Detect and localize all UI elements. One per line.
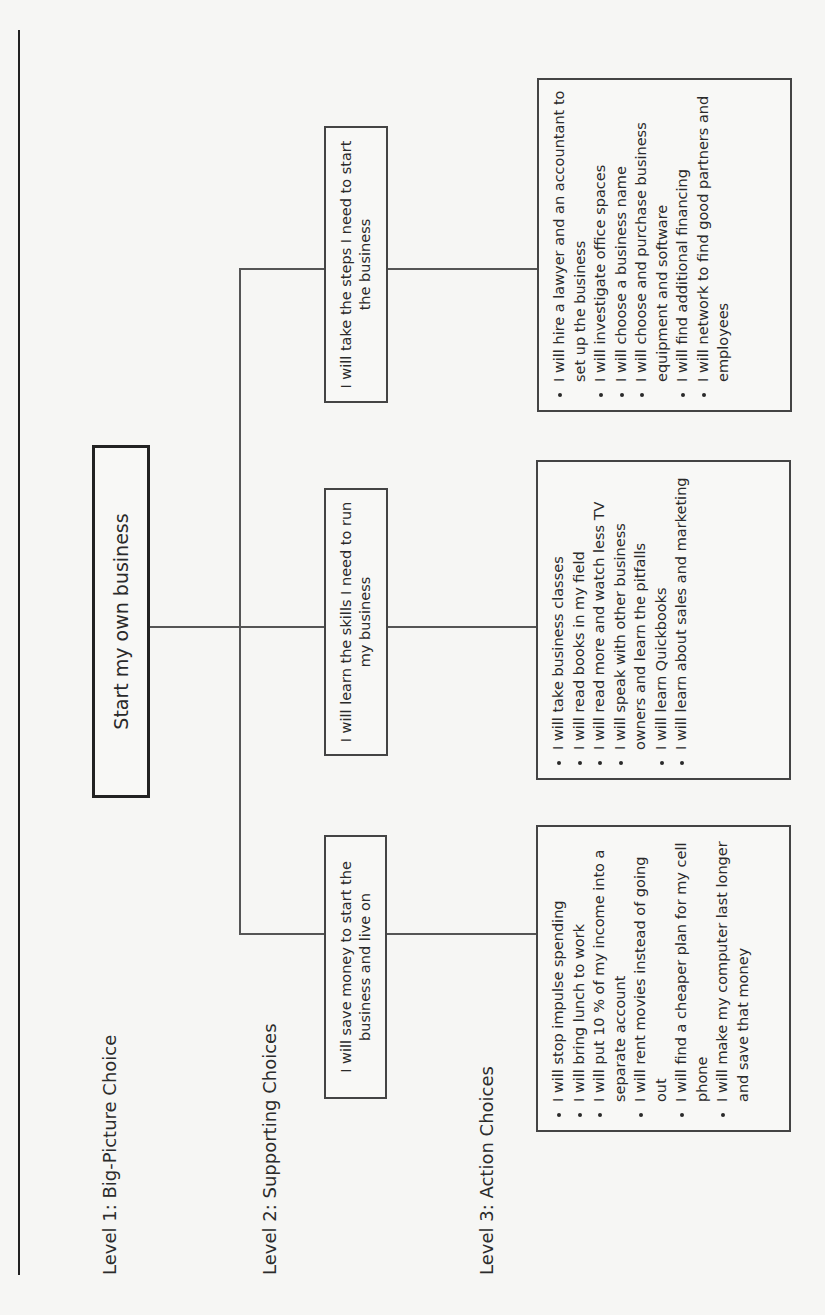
action-item: I will choose a business name: [611, 88, 632, 382]
level-2-label: Level 2: Supporting Choices: [259, 1023, 280, 1275]
level-3-label: Level 3: Action Choices: [476, 1066, 497, 1275]
connector-skills-to-actions: [388, 626, 536, 628]
action-item: I will bring lunch to work: [569, 835, 590, 1102]
action-item: I will take business classes: [548, 470, 569, 750]
action-item: I will speak with other business owners …: [610, 470, 651, 750]
supporting-box-steps: I will take the steps I need to start th…: [324, 126, 388, 403]
actions-box-steps: I will hire a lawyer and an accountant t…: [537, 78, 792, 412]
actions-box-save: I will stop impulse spending I will brin…: [536, 825, 791, 1132]
left-rule: [18, 30, 20, 1275]
action-item: I will find a cheaper plan for my cell p…: [671, 835, 712, 1102]
actions-box-skills: I will take business classes I will read…: [536, 460, 791, 780]
action-item: I will learn Quickbooks: [651, 470, 672, 750]
connector-spine: [239, 268, 241, 935]
supporting-box-save: I will save money to start the business …: [324, 835, 387, 1099]
action-item: I will read books in my field: [569, 470, 590, 750]
action-item: I will hire a lawyer and an accountant t…: [549, 88, 590, 382]
action-item: I will make my computer last longer and …: [712, 835, 753, 1102]
big-picture-box: Start my own business: [92, 445, 150, 798]
action-item: I will rent movies instead of going out: [630, 835, 671, 1102]
action-item: I will find additional financing: [672, 88, 693, 382]
action-item: I will investigate office spaces: [590, 88, 611, 382]
connector-main-to-mid: [150, 626, 324, 628]
actions-list-steps: I will hire a lawyer and an accountant t…: [549, 88, 734, 400]
actions-list-skills: I will take business classes I will read…: [548, 470, 692, 768]
supporting-text-steps: I will take the steps I need to start th…: [337, 134, 375, 395]
action-item: I will stop impulse spending: [548, 835, 569, 1102]
choice-hierarchy-diagram: Level 1: Big-Picture Choice Level 2: Sup…: [0, 0, 825, 1315]
supporting-box-skills: I will learn the skills I need to run my…: [324, 488, 388, 756]
supporting-text-save: I will save money to start the business …: [337, 843, 375, 1091]
supporting-text-skills: I will learn the skills I need to run my…: [337, 496, 375, 748]
connector-spine-to-save: [239, 933, 324, 935]
actions-list-save: I will stop impulse spending I will brin…: [548, 835, 753, 1120]
action-item: I will learn about sales and marketing: [671, 470, 692, 750]
action-item: I will network to find good partners and…: [693, 88, 734, 382]
level-1-label: Level 1: Big-Picture Choice: [99, 1035, 120, 1275]
connector-steps-to-actions: [388, 268, 537, 270]
connector-spine-to-steps: [239, 268, 324, 270]
action-item: I will choose and purchase business equi…: [631, 88, 672, 382]
action-item: I will put 10 % of my income into a sepa…: [589, 835, 630, 1102]
action-item: I will read more and watch less TV: [589, 470, 610, 750]
big-picture-text: Start my own business: [110, 513, 132, 729]
connector-save-to-actions: [387, 933, 537, 935]
